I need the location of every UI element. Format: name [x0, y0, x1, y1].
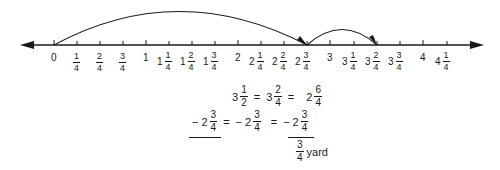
- whole-part: 3: [365, 57, 371, 67]
- row2-a-whole: 2: [201, 116, 207, 128]
- equals-sign: =: [271, 116, 277, 128]
- fraction: 34: [211, 51, 218, 72]
- whole-part: 2: [249, 57, 255, 67]
- whole-part: 1: [157, 57, 163, 67]
- fraction: 14: [165, 51, 172, 72]
- denominator: 4: [301, 123, 309, 133]
- fraction: 24: [96, 52, 103, 73]
- whole-part: 3: [342, 57, 348, 67]
- tick-label: 234: [295, 51, 310, 72]
- tick-label: 24: [96, 51, 103, 73]
- large-jump-arc: [54, 12, 307, 46]
- tick-label: 224: [272, 51, 287, 72]
- row2-c-whole: 2: [293, 116, 299, 128]
- fraction: 14: [350, 51, 357, 72]
- row2-c-fraction: 3 4: [301, 110, 309, 133]
- numerator: 1: [165, 51, 172, 60]
- tick-label: 114: [157, 51, 172, 72]
- result-row: 3 4 yard: [296, 140, 328, 163]
- denominator: 4: [253, 123, 261, 133]
- whole-part: 2: [272, 57, 278, 67]
- numerator: 3: [396, 51, 403, 60]
- numerator: 3: [210, 110, 218, 120]
- tick-label: 2: [235, 53, 241, 63]
- row1-b-fraction: 2 4: [274, 85, 282, 108]
- tick-label: 214: [249, 51, 264, 72]
- numerator: 3: [211, 51, 218, 60]
- tick-label: 0: [51, 53, 57, 63]
- numerator: 3: [253, 110, 261, 120]
- numerator: 2: [96, 52, 103, 61]
- denominator: 4: [296, 153, 304, 163]
- integer-label: 4: [420, 52, 426, 63]
- row2-a-fraction: 3 4: [210, 110, 218, 133]
- row1-b-whole: 3: [266, 91, 272, 103]
- minus-sign: −: [236, 116, 242, 128]
- denominator: 4: [73, 64, 80, 73]
- numerator: 2: [373, 51, 380, 60]
- numerator: 2: [280, 51, 287, 60]
- subtraction-underline-right: [288, 137, 314, 138]
- equals-sign: =: [254, 91, 260, 103]
- equals-sign: =: [288, 91, 294, 103]
- numerator: 3: [296, 140, 304, 150]
- tick-label: 134: [203, 51, 218, 72]
- small-jump-arc: [307, 30, 377, 46]
- equals-sign: =: [223, 116, 229, 128]
- denominator: 4: [210, 123, 218, 133]
- denominator: 4: [96, 64, 103, 73]
- fraction: 34: [396, 51, 403, 72]
- numerator: 2: [274, 85, 282, 95]
- row2-b-fraction: 3 4: [253, 110, 261, 133]
- denominator: 4: [373, 63, 380, 72]
- number-line-diagram: 0142434111412413422142242343314324334441…: [0, 0, 500, 170]
- tick-label: 14: [73, 51, 80, 73]
- denominator: 4: [396, 63, 403, 72]
- tick-label: 124: [180, 51, 195, 72]
- right-arrow-icon: [470, 41, 484, 49]
- large-arc-arrowhead-icon: [297, 36, 307, 45]
- fraction: 34: [303, 51, 310, 72]
- whole-part: 1: [203, 57, 209, 67]
- fraction: 14: [73, 52, 80, 73]
- tick-label: 1: [143, 53, 149, 63]
- denominator: 4: [314, 98, 322, 108]
- denominator: 4: [274, 98, 282, 108]
- left-arrow-icon: [20, 41, 34, 49]
- numerator: 2: [188, 51, 195, 60]
- unit-label: yard: [307, 146, 328, 158]
- fraction: 14: [257, 51, 264, 72]
- tick-label: 324: [365, 51, 380, 72]
- row1-a-fraction: 1 2: [240, 85, 248, 108]
- minus-sign: −: [283, 116, 289, 128]
- tick-label: 414: [435, 51, 450, 72]
- denominator: 4: [257, 63, 264, 72]
- equation-row-2: − 2 3 4 = − 2 3 4 = − 2 3 4: [192, 110, 308, 133]
- whole-part: 3: [388, 57, 394, 67]
- integer-label: 2: [235, 52, 241, 63]
- numerator: 1: [257, 51, 264, 60]
- denominator: 2: [240, 98, 248, 108]
- integer-label: 3: [327, 52, 333, 63]
- row1-c-fraction: 6 4: [314, 85, 322, 108]
- integer-label: 0: [51, 52, 57, 63]
- whole-part: 2: [295, 57, 301, 67]
- denominator: 4: [211, 63, 218, 72]
- tick-label: 314: [342, 51, 357, 72]
- denominator: 4: [165, 63, 172, 72]
- fraction: 24: [373, 51, 380, 72]
- equation-row-1: 3 1 2 = 3 2 4 = 2 6 4: [232, 85, 322, 108]
- whole-part: 4: [435, 57, 441, 67]
- numerator: 3: [303, 51, 310, 60]
- integer-label: 1: [143, 52, 149, 63]
- whole-part: 1: [180, 57, 186, 67]
- numerator: 1: [443, 51, 450, 60]
- row1-c-whole: 2: [306, 91, 312, 103]
- numerator: 1: [350, 51, 357, 60]
- denominator: 4: [119, 64, 126, 73]
- row2-b-whole: 2: [245, 116, 251, 128]
- numerator: 3: [119, 52, 126, 61]
- numerator: 1: [240, 85, 248, 95]
- denominator: 4: [188, 63, 195, 72]
- minus-sign: −: [192, 116, 198, 128]
